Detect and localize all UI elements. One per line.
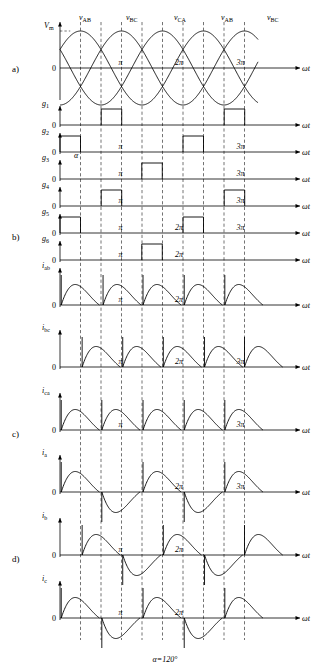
zero-label-ic: 0 [52,614,56,623]
group-label-b: b) [12,232,20,242]
signal-label-ibc: ibc [42,323,50,333]
vaxis-ica-arrow [58,393,62,398]
group-label-d: d) [12,554,20,564]
axis-ia-arrow [296,490,301,494]
omega-t-label-g6: ωt [302,256,311,265]
vaxis-ib-arrow [58,518,62,523]
x-tick-3π-row0: 3π [236,58,246,67]
voltage-label-AB-0: vAB [79,13,91,23]
caption: α=120° [153,655,179,664]
zero-label-a: 0 [52,64,56,73]
axis-g6-arrow [296,258,301,262]
x-tick-2π-row8: 2π [175,357,184,366]
pulse-train-g2 [60,136,204,152]
pulse-train-g1 [101,109,245,125]
axis-g5-arrow [296,231,301,235]
voltage-label-BC-1: vBC [126,13,138,23]
omega-t-label-a: ωt [302,64,311,73]
axis-ib-arrow [296,553,301,557]
zero-label-g5: 0 [52,229,56,238]
omega-t-label-ib: ωt [302,551,311,560]
x-tick-π-row6: π [119,250,124,259]
omega-t-label-g2: ωt [302,148,311,157]
omega-t-label-g5: ωt [302,229,311,238]
current-arc-pos-ib-2 [245,535,283,556]
zero-label-g3: 0 [52,175,56,184]
vaxis-g6-arrow [58,241,62,246]
signal-label-ib: ib [42,511,47,521]
pulse-train-g6 [142,244,163,260]
omega-t-label-g3: ωt [302,175,311,184]
current-arc-neg-ib-1 [205,555,243,576]
x-tick-2π-row10: 2π [175,482,184,491]
pulse-train-g4 [101,190,245,206]
signal-label-g1: g1 [42,99,49,109]
vaxis-a-arrow [58,22,62,27]
x-tick-2π-row6: 2π [175,250,184,259]
current-arc-ibc-4 [245,347,283,368]
pulse-train-g3 [142,163,163,179]
axis-g4-arrow [296,204,301,208]
signal-label-g6: g6 [42,234,49,244]
voltage-label-AB-3: vAB [221,13,233,23]
x-tick-3π-row2: 3π [236,142,246,151]
figure-container: ωtωtωtωtωtωtωtωtωtωtωtωtωt0000000000000V… [0,0,331,671]
axis-g3-arrow [296,177,301,181]
x-tick-3π-row4: 3π [236,196,246,205]
omega-t-label-g1: ωt [302,121,311,130]
vaxis-iab-arrow [58,268,62,273]
axis-ica-arrow [296,428,301,432]
vaxis-g3-arrow [58,160,62,165]
x-tick-2π-row12: 2π [175,608,184,617]
zero-label-g6: 0 [52,256,56,265]
axis-iab-arrow [296,303,301,307]
omega-t-label-ibc: ωt [302,363,311,372]
zero-label-g4: 0 [52,202,56,211]
x-tick-3π-row3: 3π [236,169,246,178]
voltage-label-CA-2: vCA [174,13,187,23]
group-label-a: a) [12,64,19,74]
x-tick-π-row7: π [119,295,124,304]
signal-label-ica: ica [42,386,50,396]
omega-t-label-ic: ωt [302,614,311,623]
omega-t-label-g4: ωt [302,202,311,211]
omega-t-label-iab: ωt [302,301,311,310]
x-tick-π-row9: π [119,420,124,429]
x-tick-π-row12: π [119,608,124,617]
current-arc-pos-ic-2 [225,598,263,619]
signal-label-g4: g4 [42,180,49,190]
x-tick-π-row3: π [119,169,124,178]
x-tick-3π-row9: 3π [236,420,246,429]
axis-g2-arrow [296,150,301,154]
axis-ibc-arrow [296,365,301,369]
x-tick-π-row4: π [119,196,124,205]
zero-label-g2: 0 [52,148,56,157]
axis-ic-arrow [296,616,301,620]
x-tick-π-row11: π [119,545,124,554]
signal-label-g3: g3 [42,153,49,163]
omega-t-label-ia: ωt [302,488,311,497]
vaxis-g4-arrow [58,187,62,192]
zero-label-ib: 0 [52,551,56,560]
omega-t-label-ica: ωt [302,426,311,435]
current-arc-ica-2 [143,410,181,431]
axis-g1-arrow [296,123,301,127]
x-tick-2π-row11: 2π [175,545,184,554]
signal-label-g2: g2 [42,126,49,136]
voltage-label-BC-4: vBC [267,13,279,23]
signal-label-g5: g5 [42,207,49,217]
signal-label-ia: ia [42,448,47,458]
x-tick-3π-row5: 3π [236,223,246,232]
zero-label-iab: 0 [52,301,56,310]
current-arc-iab-4 [225,285,263,306]
x-tick-π-row5: π [119,223,124,232]
x-tick-2π-row7: 2π [175,295,184,304]
vaxis-ic-arrow [58,581,62,586]
zero-label-g1: 0 [52,121,56,130]
x-tick-π-row0: π [119,58,124,67]
signal-label-ic: ic [42,574,47,584]
vaxis-g1-arrow [58,106,62,111]
zero-label-ica: 0 [52,426,56,435]
waveform-diagram: ωtωtωtωtωtωtωtωtωtωtωtωtωt0000000000000V… [0,0,331,671]
vaxis-ibc-arrow [58,330,62,335]
